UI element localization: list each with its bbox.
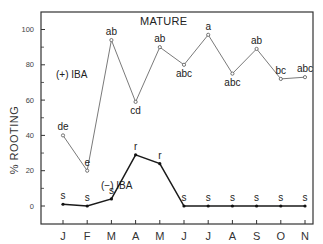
significance-label: cd	[130, 105, 141, 116]
data-point-open	[303, 76, 306, 79]
x-tick-label: O	[277, 230, 286, 242]
x-axis-ticks: JFMAMJJASON	[60, 220, 309, 242]
plot-frame	[41, 12, 313, 224]
data-point-filled	[134, 153, 137, 156]
x-tick-label: M	[155, 230, 164, 242]
significance-label: s	[278, 192, 283, 203]
x-tick-label: N	[301, 230, 309, 242]
significance-label: e	[84, 157, 90, 168]
data-point-filled	[86, 204, 89, 207]
x-tick-label: J	[181, 230, 187, 242]
significance-label: s	[109, 185, 114, 196]
series-minus-iba: sssrrssssss	[61, 141, 308, 208]
data-point-filled	[231, 204, 234, 207]
data-point-filled	[110, 197, 113, 200]
data-point-open	[110, 38, 113, 41]
significance-label: abc	[224, 77, 240, 88]
significance-label: bc	[276, 65, 287, 76]
y-tick-label: 100	[21, 25, 34, 34]
data-point-filled	[61, 203, 64, 206]
y-tick-label: 40	[26, 131, 34, 140]
y-axis-label: % ROOTING	[8, 106, 20, 175]
significance-label: s	[182, 192, 187, 203]
data-point-open	[134, 100, 137, 103]
significance-label: r	[134, 141, 138, 152]
significance-label: ab	[251, 35, 263, 46]
data-point-open	[86, 169, 89, 172]
significance-label: s	[206, 192, 211, 203]
x-tick-label: A	[132, 230, 140, 242]
significance-label: abc	[176, 68, 192, 79]
series-group: deeabcdababcaabcabbcabcsssrrssssss	[57, 21, 313, 208]
rooting-line-chart: 020406080100 JFMAMJJASON % ROOTING MATUR…	[0, 0, 323, 244]
plot-border	[41, 12, 313, 224]
x-tick-label: S	[253, 230, 260, 242]
series-plus-iba: deeabcdababcaabcabbcabc	[57, 21, 313, 173]
data-point-open	[279, 77, 282, 80]
series-label-plus-iba: (+) IBA	[56, 69, 88, 80]
x-tick-label: F	[84, 230, 91, 242]
significance-label: s	[61, 190, 66, 201]
x-tick-label: J	[205, 230, 211, 242]
data-point-open	[61, 134, 64, 137]
data-point-filled	[207, 204, 210, 207]
data-point-filled	[158, 162, 161, 165]
significance-label: r	[158, 150, 162, 161]
y-tick-label: 20	[26, 166, 34, 175]
significance-label: s	[230, 192, 235, 203]
significance-label: ab	[154, 33, 166, 44]
significance-label: s	[303, 192, 308, 203]
data-point-filled	[255, 204, 258, 207]
data-point-filled	[303, 204, 306, 207]
x-tick-label: M	[107, 230, 116, 242]
data-point-open	[182, 63, 185, 66]
data-point-filled	[279, 204, 282, 207]
y-tick-label: 0	[30, 202, 34, 211]
data-point-open	[255, 47, 258, 50]
x-tick-label: J	[60, 230, 66, 242]
significance-label: a	[205, 21, 211, 32]
x-tick-label: A	[229, 230, 237, 242]
significance-label: de	[57, 121, 69, 132]
y-tick-label: 80	[26, 60, 34, 69]
chart-title: MATURE	[140, 15, 187, 27]
significance-label: ab	[106, 26, 118, 37]
line-plus-iba	[63, 35, 305, 171]
y-tick-label: 60	[26, 96, 34, 105]
data-point-open	[207, 33, 210, 36]
data-point-open	[231, 72, 234, 75]
data-point-filled	[182, 204, 185, 207]
significance-label: s	[254, 192, 259, 203]
significance-label: s	[85, 192, 90, 203]
data-point-open	[158, 46, 161, 49]
significance-label: abc	[297, 63, 313, 74]
